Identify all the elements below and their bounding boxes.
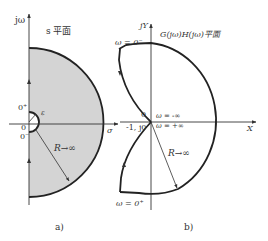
- mapped-contour-lower: [120, 122, 151, 192]
- jy-axis-label: jY: [140, 22, 148, 30]
- zero-minus-label: 0⁻: [20, 133, 29, 141]
- r-radius-label-a: R→∞: [54, 144, 76, 153]
- epsilon-label: ε: [41, 110, 45, 117]
- mapped-contour-upper: [119, 49, 151, 122]
- sigma-axis-label: σ: [107, 127, 112, 135]
- caption-a: a): [55, 223, 64, 232]
- origin-label-a: 0: [21, 124, 26, 132]
- r-radius-label-b: R→∞: [168, 149, 190, 158]
- omega-plus-inf-label: ω = +∞: [156, 123, 184, 130]
- x-axis-label: X: [247, 125, 253, 133]
- omega-minus-zero-label: ω = 0⁻: [115, 39, 143, 47]
- gh-plane-diagram: [118, 24, 256, 210]
- critical-point-label: -1, j0: [126, 124, 146, 132]
- omega-minus-inf-label: ω = -∞: [156, 113, 180, 120]
- caption-b: b): [184, 223, 193, 232]
- s-plane-title: s 平面: [46, 27, 71, 36]
- zero-plus-label: 0⁺: [18, 104, 27, 112]
- nyquist-contour-region: [29, 48, 103, 197]
- gh-plane-title: G(jω)H(jω)平面: [160, 31, 220, 39]
- omega-plus-zero-label: ω = 0⁺: [116, 200, 144, 208]
- origin-label-b: 0: [141, 111, 146, 119]
- epsilon-radius: [29, 114, 36, 122]
- jw-axis-label: jω: [15, 16, 25, 25]
